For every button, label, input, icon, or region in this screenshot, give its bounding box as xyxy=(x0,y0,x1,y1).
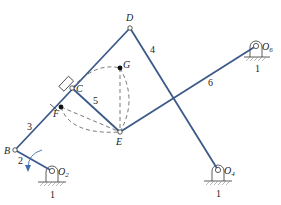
label-b: B xyxy=(4,145,10,156)
link-number-2: 2 xyxy=(18,155,23,166)
label-d: D xyxy=(125,12,134,23)
label-o2: O2 xyxy=(58,166,69,179)
label-f: F xyxy=(52,108,60,119)
link-6 xyxy=(120,46,256,132)
ground-number-o4: 1 xyxy=(216,188,221,199)
ground-number-o2: 1 xyxy=(50,189,55,200)
joint-e xyxy=(118,130,122,134)
link-number-6: 6 xyxy=(208,77,213,88)
joint-d xyxy=(128,26,132,30)
link-number-5: 5 xyxy=(93,95,98,106)
link-number-4: 4 xyxy=(150,44,155,55)
joint-b xyxy=(13,148,17,152)
joint-c xyxy=(70,86,74,90)
link-number-3: 3 xyxy=(27,121,32,132)
mechanism-diagram: D C G F E B O2 O4 O6 2 3 4 5 6 1 1 1 xyxy=(0,0,281,205)
label-o4: O4 xyxy=(224,165,235,178)
point-f xyxy=(59,105,64,110)
label-o6: O6 xyxy=(262,41,273,54)
link-4 xyxy=(130,28,218,170)
point-g xyxy=(118,66,123,71)
joint-o2 xyxy=(49,168,54,173)
label-g: G xyxy=(123,59,130,70)
joint-o6 xyxy=(253,43,258,48)
label-c: C xyxy=(76,83,83,94)
ground-number-o6: 1 xyxy=(255,63,260,74)
joint-o4 xyxy=(215,167,220,172)
label-e: E xyxy=(115,136,122,147)
